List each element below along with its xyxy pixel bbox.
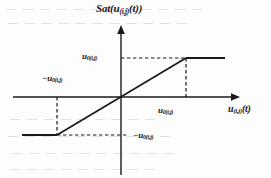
x-axis-label: u(i,j)(t) [228,104,251,115]
figure-title: Sat(u(i,j)(t)) [96,3,142,15]
y-tick-label-positive: u0(i,j) [82,52,97,61]
y-tick-label-negative: −u0(i,j) [42,74,62,83]
saturation-plot [0,0,271,178]
title-suffix: ) [139,2,142,14]
x-tick-positive-subscript: 0(i,j) [163,109,173,115]
y-axis-arrow-icon [117,25,125,34]
y-tick-negative-subscript: 0(i,j) [52,77,62,83]
x-axis-arrow-icon [231,93,240,101]
y-axis [117,25,125,175]
saturation-function-figure: — — — — — — — — — — — — — — — — — — — — … [0,0,271,178]
y-tick-positive-subscript: 0(i,j) [87,55,97,61]
title-prefix: Sat( [96,2,114,14]
x-tick-label-positive: u0(i,j) [158,106,173,115]
x-tick-label-negative: −u0(i,j) [133,131,153,140]
title-argument: (t) [129,2,139,14]
title-subscript: (i,j) [119,7,129,16]
x-axis-label-argument: (t) [242,103,251,114]
x-axis-label-subscript: (i,j) [233,107,242,114]
x-tick-negative-subscript: 0(i,j) [143,134,153,140]
